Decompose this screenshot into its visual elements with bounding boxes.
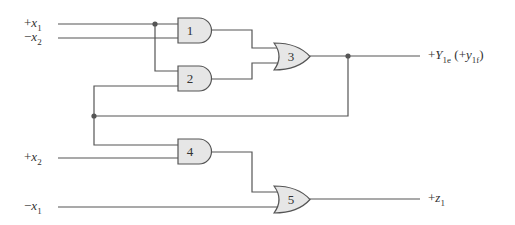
junction-dot xyxy=(152,21,157,26)
input-label-x2-neg: −x2 xyxy=(24,30,42,47)
junction-dot xyxy=(91,113,96,118)
wire-gate4-to-gate5 xyxy=(212,152,278,192)
and-gate-2 xyxy=(178,66,212,91)
input-label-x2-pos: +x2 xyxy=(24,150,42,167)
gate-1-label: 1 xyxy=(187,23,194,38)
and-gate-4 xyxy=(178,139,212,164)
junction-dot xyxy=(345,53,350,58)
gate-3-label: 3 xyxy=(288,49,295,64)
gate-5-label: 5 xyxy=(288,192,295,207)
wire-gate1-to-gate3 xyxy=(212,30,278,48)
output-label-Y1e: +Y1e (+y1f) xyxy=(428,48,484,65)
wire-gate2-to-gate3 xyxy=(212,63,278,79)
and-gate-1 xyxy=(178,18,211,43)
input-label-x1-neg: −x1 xyxy=(24,199,42,216)
gate-4-label: 4 xyxy=(187,144,194,159)
gate-2-label: 2 xyxy=(187,71,194,86)
output-label-z1: +z1 xyxy=(428,191,445,208)
wire-x1-to-gate2 xyxy=(155,24,178,71)
